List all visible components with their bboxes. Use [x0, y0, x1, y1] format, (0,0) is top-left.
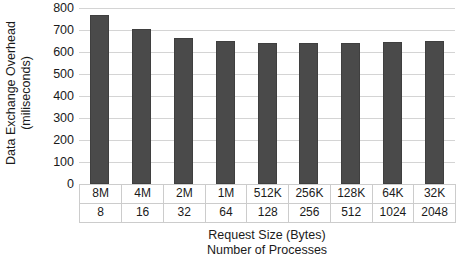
bars-layer	[79, 8, 455, 184]
plot-area	[79, 8, 455, 184]
y-axis-tick-labels: 8007006005004003002001000	[36, 8, 74, 184]
bar-slot	[121, 8, 163, 184]
y-axis-tick-label: 200	[36, 134, 74, 146]
bar	[299, 43, 318, 184]
bar-slot	[79, 8, 121, 184]
x-axis-row-request-size: 8M4M2M1M512K256K128K64K32K	[80, 185, 456, 204]
y-axis-tick-label: 500	[36, 68, 74, 80]
y-axis-title: Data Exchange Overhead (miliseconds)	[0, 0, 38, 186]
bar-slot	[288, 8, 330, 184]
x-axis-cell-request-size: 2M	[163, 185, 205, 204]
bar-slot	[204, 8, 246, 184]
x-axis-cell-request-size: 4M	[122, 185, 164, 204]
bar-slot	[330, 8, 372, 184]
bar	[425, 41, 444, 184]
bar	[174, 38, 193, 184]
bar	[341, 43, 360, 184]
bar-slot	[163, 8, 205, 184]
x-axis-cell-request-size: 8M	[80, 185, 122, 204]
x-axis-cell-request-size: 1M	[205, 185, 247, 204]
x-axis-titles: Request Size (Bytes) Number of Processes	[79, 228, 455, 258]
x-axis-cell-number-of-processes: 64	[205, 204, 247, 223]
y-axis-tick-label: 100	[36, 156, 74, 168]
bar-slot	[371, 8, 413, 184]
x-axis-row-number-of-processes: 816326412825651210242048	[80, 204, 456, 223]
bar-chart: Data Exchange Overhead (miliseconds) 800…	[0, 0, 469, 266]
x-axis-title-request-size: Request Size (Bytes)	[79, 228, 455, 243]
x-axis-cell-request-size: 512K	[247, 185, 289, 204]
bar-slot	[246, 8, 288, 184]
x-axis-cell-request-size: 32K	[414, 185, 456, 204]
y-axis-tick-label: 600	[36, 46, 74, 58]
bar	[216, 41, 235, 184]
y-axis-tick-label: 300	[36, 112, 74, 124]
bar	[132, 29, 151, 184]
x-axis-cell-number-of-processes: 16	[122, 204, 164, 223]
x-axis-cell-number-of-processes: 2048	[414, 204, 456, 223]
x-axis-cell-number-of-processes: 128	[247, 204, 289, 223]
bar	[383, 42, 402, 184]
y-axis-title-line1: Data Exchange Overhead	[4, 21, 19, 165]
x-axis-cell-number-of-processes: 256	[289, 204, 331, 223]
x-axis-cell-number-of-processes: 1024	[372, 204, 414, 223]
bar	[90, 15, 109, 184]
x-axis-label-table: 8M4M2M1M512K256K128K64K32K 8163264128256…	[79, 184, 456, 223]
x-axis-cell-request-size: 64K	[372, 185, 414, 204]
x-axis-cell-request-size: 256K	[289, 185, 331, 204]
x-axis-title-number-of-processes: Number of Processes	[79, 243, 455, 258]
bar	[258, 43, 277, 184]
y-axis-title-line2: (miliseconds)	[19, 21, 34, 165]
x-axis-cell-request-size: 128K	[330, 185, 372, 204]
bar-slot	[413, 8, 455, 184]
y-axis-tick-label: 700	[36, 24, 74, 36]
x-axis-cell-number-of-processes: 32	[163, 204, 205, 223]
x-axis-cell-number-of-processes: 512	[330, 204, 372, 223]
y-axis-tick-label: 800	[36, 2, 74, 14]
y-axis-tick-label: 0	[36, 178, 74, 190]
y-axis-tick-label: 400	[36, 90, 74, 102]
x-axis-cell-number-of-processes: 8	[80, 204, 122, 223]
